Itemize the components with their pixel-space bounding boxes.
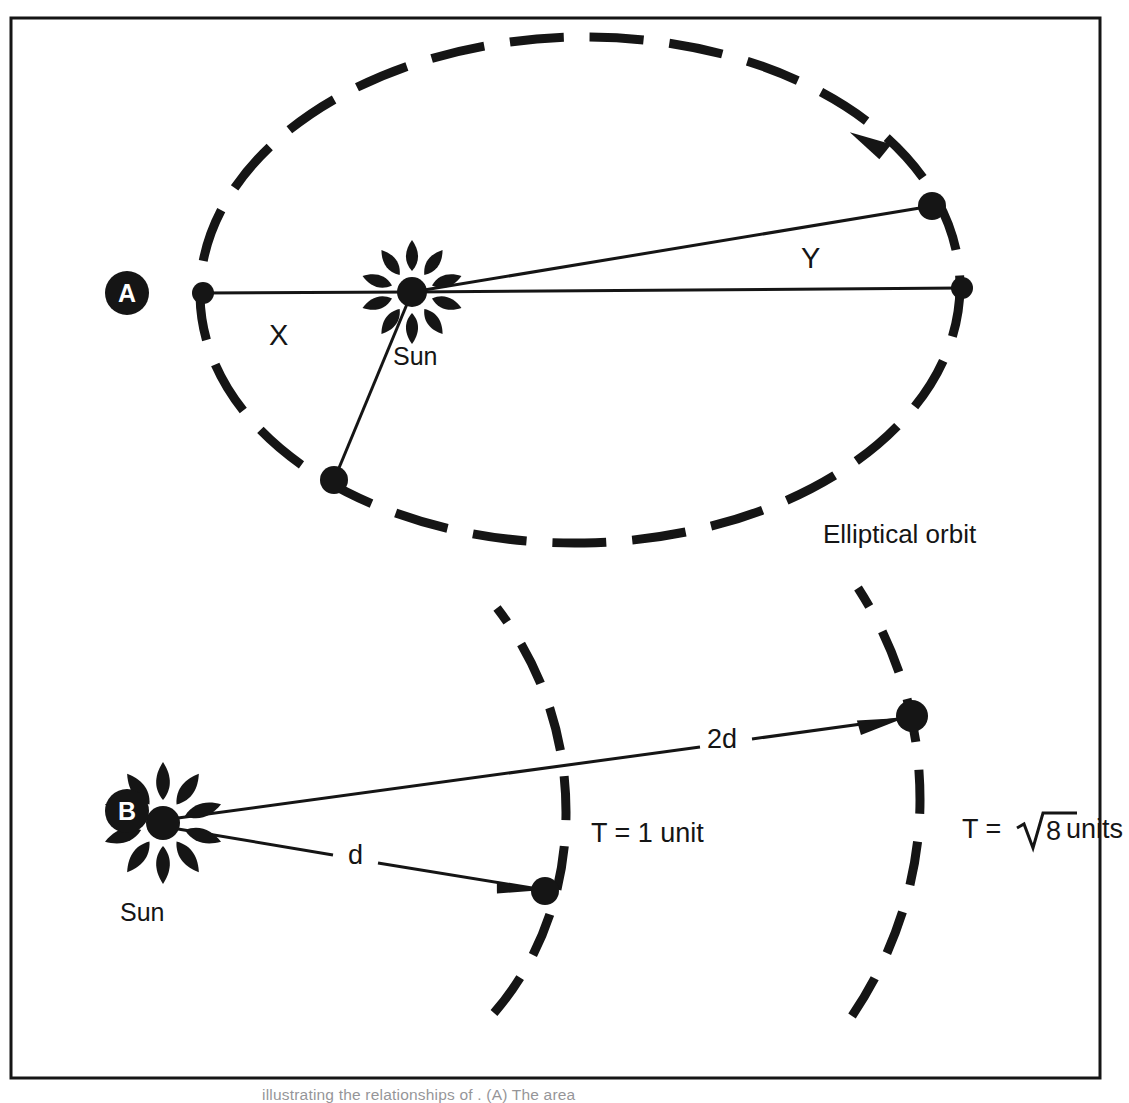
panel-badge-a-letter: A [118,279,136,307]
figure-root: Sun X Y Elliptical orbit A [0,0,1129,1103]
sector-label-x: X [269,319,288,351]
sun-label-a: Sun [393,342,437,370]
panel-badge-a: A [105,271,149,315]
radius-label-d: d [348,840,363,870]
panel-badge-b-letter: B [118,797,136,825]
outer-planet-body [896,700,928,732]
aphelion-point [192,282,214,304]
sun-core [397,277,427,307]
sun-core [146,806,180,840]
sector-y-upper-point [918,192,946,220]
period-label-outer-prefix: T = [962,814,1001,844]
panel-badge-b: B [105,789,149,833]
sector-label-y: Y [801,242,820,274]
period-label-outer-radicand: 8 [1046,816,1061,846]
figure-caption: illustrating the relationships of . (A) … [0,1081,1129,1103]
perihelion-point [951,277,973,299]
radius-label-2d: 2d [707,724,737,754]
inner-planet-body [531,877,559,905]
orbital-mechanics-diagram: Sun X Y Elliptical orbit A [0,0,1129,1103]
period-label-inner: T = 1 unit [591,818,704,848]
period-label-outer-suffix: units [1066,814,1123,844]
sun-label-b: Sun [120,898,164,926]
sector-x-lower-point [320,466,348,494]
elliptical-orbit-label: Elliptical orbit [823,519,977,549]
figure-caption-text: illustrating the relationships of . (A) … [262,1086,575,1103]
sector-x-line-major [203,292,412,293]
